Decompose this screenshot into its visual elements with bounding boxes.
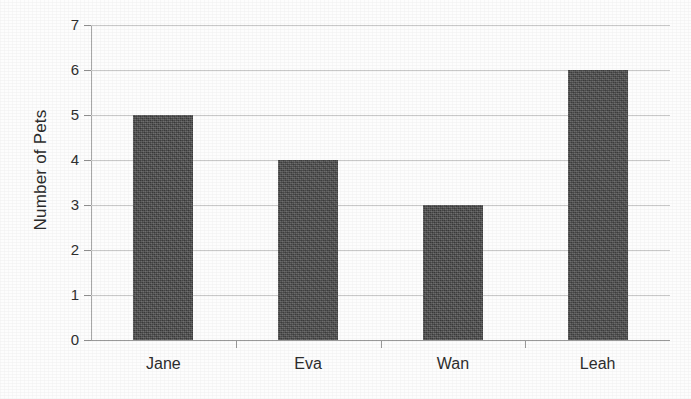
y-tick-mark — [84, 160, 91, 161]
x-tick-mark — [525, 340, 526, 348]
x-tick-label: Eva — [294, 355, 322, 373]
x-tick-label: Leah — [580, 355, 616, 373]
y-tick-label: 3 — [53, 196, 79, 213]
x-tick-label: Jane — [146, 355, 181, 373]
y-tick-mark — [84, 70, 91, 71]
y-tick-mark — [84, 340, 91, 341]
y-tick-mark — [84, 115, 91, 116]
y-tick-label: 0 — [53, 331, 79, 348]
y-tick-mark — [84, 205, 91, 206]
x-tick-mark — [236, 340, 237, 348]
y-tick-label: 1 — [53, 286, 79, 303]
y-tick-mark — [84, 25, 91, 26]
y-tick-mark — [84, 295, 91, 296]
y-tick-mark — [84, 250, 91, 251]
y-tick-label: 6 — [53, 61, 79, 78]
y-tick-label: 5 — [53, 106, 79, 123]
bar — [568, 70, 628, 340]
x-tick-label: Wan — [437, 355, 469, 373]
plot-area — [91, 25, 670, 340]
y-tick-label: 2 — [53, 241, 79, 258]
bar-chart: Number of Pets 01234567 JaneEvaWanLeah — [0, 0, 691, 399]
y-tick-label: 7 — [53, 16, 79, 33]
y-tick-label: 4 — [53, 151, 79, 168]
bar — [278, 160, 338, 340]
bar — [423, 205, 483, 340]
x-tick-mark — [381, 340, 382, 348]
gridline — [91, 25, 670, 26]
bar — [133, 115, 193, 340]
